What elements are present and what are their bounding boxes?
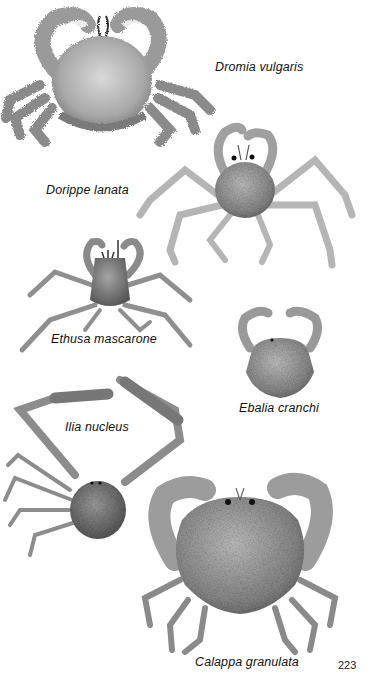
page-number: 223 [338, 659, 356, 671]
dromia-vulgaris-illustration [6, 15, 210, 142]
dorippe-lanata-illustration [140, 127, 352, 265]
caption-dorippe-lanata: Dorippe lanata [46, 183, 129, 197]
book-page: Dromia vulgaris Dorippe lanata Ethusa ma… [0, 0, 372, 675]
caption-ebalia-cranchi: Ebalia cranchi [239, 401, 319, 415]
caption-calappa-granulata: Calappa granulata [195, 655, 299, 669]
caption-ilia-nucleus: Ilia nucleus [65, 420, 129, 434]
calappa-granulata-illustration [145, 484, 335, 652]
caption-dromia-vulgaris: Dromia vulgaris [215, 60, 303, 74]
ebalia-cranchi-illustration [242, 311, 317, 398]
caption-ethusa-mascarone: Ethusa mascarone [51, 332, 157, 346]
